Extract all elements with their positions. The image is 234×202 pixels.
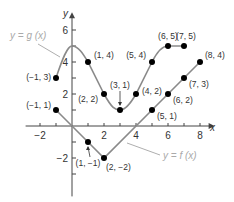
f-data-point <box>165 91 171 97</box>
g-point-label: (7, 5) <box>176 31 196 41</box>
x-tick-label: 2 <box>101 130 107 141</box>
f-data-point <box>197 59 203 65</box>
g-data-point <box>149 59 155 65</box>
y-tick-label: 6 <box>62 25 68 36</box>
x-tick-label: −2 <box>34 130 46 141</box>
y-tick-label: −2 <box>57 153 69 164</box>
g-point-label: (2, 2) <box>78 94 98 104</box>
f-point-label: (2, −2) <box>106 162 131 172</box>
g-data-point <box>85 59 91 65</box>
f-function-label: y = f (x) <box>162 150 197 161</box>
function-graph: −22468−2246 (−1, 3)(1, 4)(2, 2)(3, 1)(4,… <box>0 0 234 202</box>
f-data-point <box>181 75 187 81</box>
f-data-point <box>101 155 107 161</box>
x-axis-label: x <box>209 122 216 133</box>
y-axis-label: y <box>62 8 69 19</box>
f-point-label: (8, 4) <box>205 50 225 60</box>
g-data-point <box>181 43 187 49</box>
g-point-label: (3, 1) <box>110 80 130 90</box>
g-label-leader <box>38 44 60 57</box>
g-data-point <box>133 91 139 97</box>
f-data-point <box>85 139 91 145</box>
f-point-label: (−1, 1) <box>26 100 51 110</box>
f-point-label: (5, 1) <box>157 111 177 121</box>
f-data-point <box>53 107 59 113</box>
y-axis-arrow-icon <box>69 12 75 18</box>
f-point-label: (7, 3) <box>189 79 209 89</box>
g-data-point <box>53 75 59 81</box>
arrow-head-icon <box>118 102 122 106</box>
x-tick-label: 4 <box>133 130 139 141</box>
arrow-head-icon <box>86 146 90 150</box>
g-point-label: (4, 2) <box>142 86 162 96</box>
f-point-label: (1, −1) <box>76 158 101 168</box>
g-point-label: (−1, 3) <box>26 72 51 82</box>
g-point-label: (1, 4) <box>94 50 114 60</box>
g-data-point <box>101 91 107 97</box>
g-function-label: y = g (x) <box>9 30 46 41</box>
g-data-point <box>165 43 171 49</box>
g-data-point <box>117 107 123 113</box>
g-point-label: (6, 5) <box>158 31 178 41</box>
f-point-label: (6, 2) <box>173 95 193 105</box>
f-data-point <box>149 107 155 113</box>
f-label-leader <box>127 143 160 155</box>
g-point-label: (5, 4) <box>126 50 146 60</box>
x-tick-label: 8 <box>197 130 203 141</box>
y-tick-label: 2 <box>62 89 68 100</box>
x-tick-label: 6 <box>165 130 171 141</box>
